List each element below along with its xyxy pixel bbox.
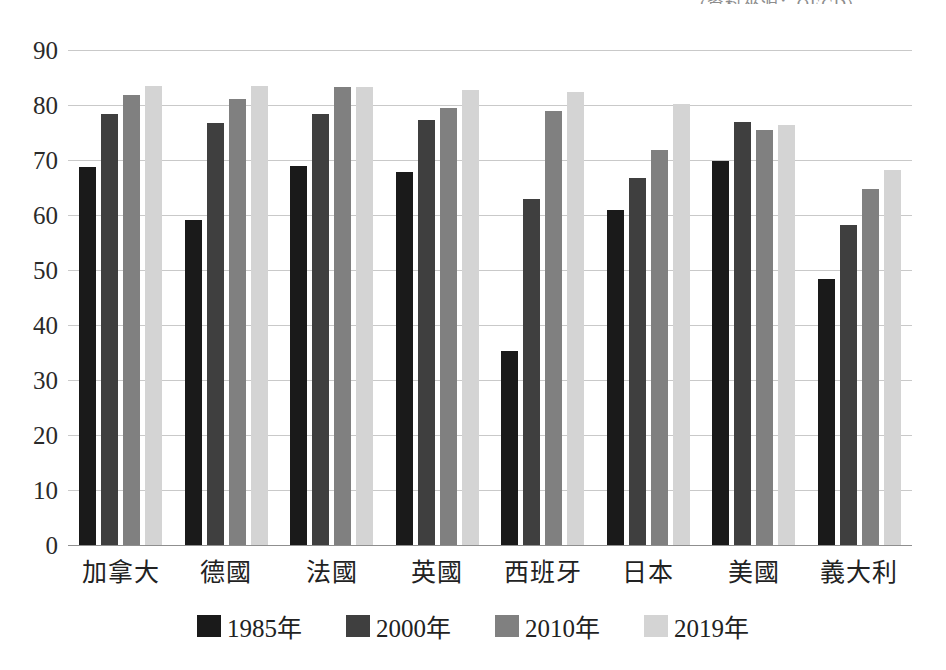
bar	[101, 114, 118, 545]
bar	[334, 87, 351, 545]
bar	[79, 167, 96, 545]
y-axis-tick-label: 50	[0, 258, 58, 283]
y-axis-tick-label: 60	[0, 203, 58, 228]
x-axis-category-label: 法國	[279, 552, 385, 588]
bar	[207, 123, 224, 545]
y-axis-tick-label: 0	[0, 533, 58, 558]
legend-item: 1985年	[197, 608, 302, 644]
legend-item-label: 2019年	[674, 608, 749, 644]
bar	[145, 86, 162, 545]
bar-group	[701, 50, 807, 545]
bar	[251, 86, 268, 545]
bar	[818, 279, 835, 545]
legend-item-label: 2000年	[376, 608, 451, 644]
square-swatch-icon	[495, 615, 519, 637]
bar	[567, 92, 584, 545]
top-caption: (資料來源：OECD)	[700, 0, 854, 4]
bar-chart: (資料來源：OECD) 9080706050403020100 加拿大德國法國英…	[0, 0, 946, 670]
bar	[290, 166, 307, 545]
y-axis-tick-label: 80	[0, 93, 58, 118]
bar	[778, 125, 795, 545]
x-axis-category-label: 德國	[174, 552, 280, 588]
y-axis: 9080706050403020100	[0, 50, 58, 545]
bar	[501, 351, 518, 545]
bar-group	[807, 50, 913, 545]
bar	[862, 189, 879, 545]
bar	[545, 111, 562, 545]
bar-group	[68, 50, 174, 545]
bar	[523, 199, 540, 545]
bar	[712, 161, 729, 545]
bar	[673, 104, 690, 545]
chart-legend: 1985年2000年2010年2019年	[0, 608, 946, 644]
x-axis-category-label: 西班牙	[490, 552, 596, 588]
bar	[840, 225, 857, 545]
x-axis-category-label: 加拿大	[68, 552, 174, 588]
bar	[356, 87, 373, 545]
bar	[185, 220, 202, 545]
bar	[123, 95, 140, 545]
y-axis-tick-label: 10	[0, 478, 58, 503]
bar	[734, 122, 751, 545]
bar	[440, 108, 457, 545]
bar	[418, 120, 435, 545]
bar	[312, 114, 329, 545]
legend-item: 2019年	[644, 608, 749, 644]
square-swatch-icon	[644, 615, 668, 637]
legend-item: 2000年	[346, 608, 451, 644]
square-swatch-icon	[346, 615, 370, 637]
bar	[756, 130, 773, 545]
bar-group	[596, 50, 702, 545]
bar	[629, 178, 646, 545]
bar-group	[385, 50, 491, 545]
bar	[884, 170, 901, 545]
plot-area	[68, 50, 912, 545]
bar-group	[174, 50, 280, 545]
x-axis-category-label: 美國	[701, 552, 807, 588]
legend-item-label: 2010年	[525, 608, 600, 644]
y-axis-tick-label: 20	[0, 423, 58, 448]
bar	[396, 172, 413, 545]
bar-group	[490, 50, 596, 545]
x-axis-category-label: 日本	[596, 552, 702, 588]
y-axis-tick-label: 90	[0, 38, 58, 63]
legend-item: 2010年	[495, 608, 600, 644]
x-axis-labels: 加拿大德國法國英國西班牙日本美國義大利	[68, 552, 912, 588]
y-axis-tick-label: 40	[0, 313, 58, 338]
y-axis-tick-label: 70	[0, 148, 58, 173]
bar	[462, 90, 479, 545]
y-axis-tick-label: 30	[0, 368, 58, 393]
x-axis-category-label: 英國	[385, 552, 491, 588]
bar	[607, 210, 624, 545]
legend-item-label: 1985年	[227, 608, 302, 644]
bar-groups	[68, 50, 912, 545]
bar	[229, 99, 246, 545]
x-axis-category-label: 義大利	[807, 552, 913, 588]
axis-baseline	[68, 545, 912, 546]
bar	[651, 150, 668, 545]
square-swatch-icon	[197, 615, 221, 637]
bar-group	[279, 50, 385, 545]
